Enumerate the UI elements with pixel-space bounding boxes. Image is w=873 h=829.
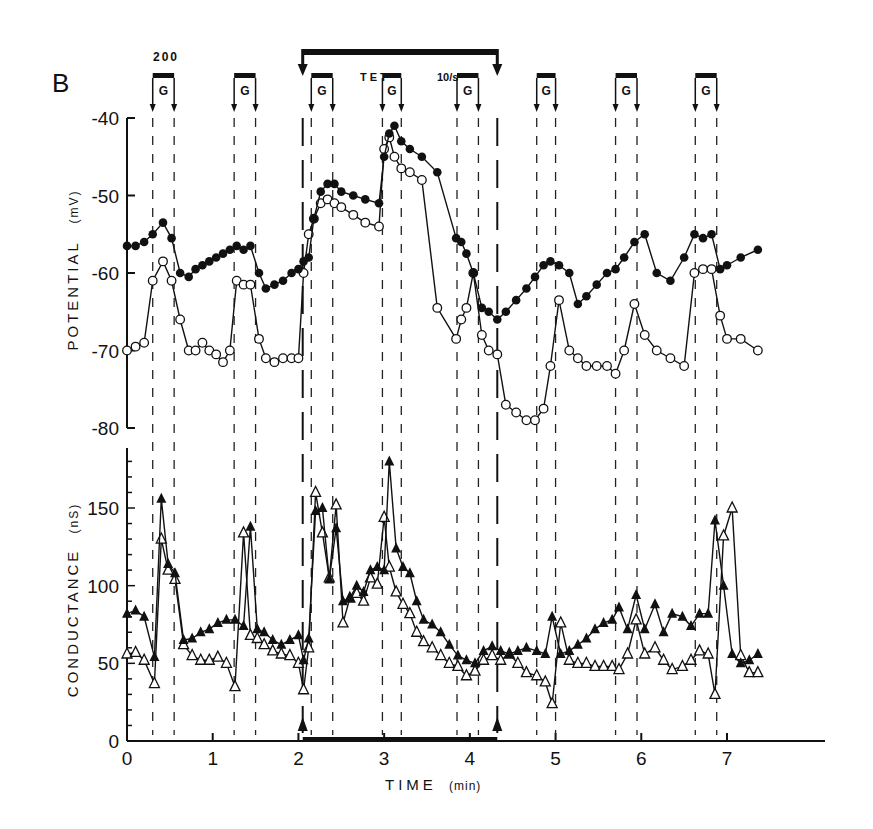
data-point [397, 137, 406, 146]
data-point [620, 346, 629, 355]
bottom-y-axis-title: CONDUCTANCE (nS) [64, 503, 81, 697]
series-line [127, 137, 758, 420]
data-point [167, 276, 176, 285]
arrow-down-icon [613, 104, 619, 112]
data-point [719, 580, 729, 590]
data-point [419, 614, 429, 624]
data-point [252, 623, 262, 633]
data-point [592, 362, 601, 371]
data-point [279, 354, 288, 363]
data-point [268, 634, 278, 644]
data-point [338, 617, 348, 627]
pulse-g-label: G [622, 84, 631, 98]
data-point [590, 623, 600, 633]
data-point [479, 645, 489, 655]
data-point [592, 280, 601, 289]
data-point [148, 230, 157, 239]
pulse-bar [153, 73, 174, 78]
pulse-bar [311, 73, 332, 78]
data-point [603, 269, 612, 278]
pulse-g-label: G [317, 84, 326, 98]
top-y-tick-label: -40 [92, 108, 119, 129]
pulse-g-label: G [541, 84, 550, 98]
data-point [703, 608, 713, 618]
data-point [304, 253, 313, 262]
arrow-down-icon [330, 104, 336, 112]
data-point [630, 300, 639, 309]
data-point [159, 257, 168, 266]
data-point [375, 199, 384, 208]
data-point [462, 304, 471, 313]
data-point [176, 315, 185, 324]
data-point [736, 335, 745, 344]
data-point [631, 589, 641, 599]
data-point [427, 619, 437, 629]
data-point [512, 296, 521, 305]
data-point [452, 335, 461, 344]
data-point [131, 342, 140, 351]
data-point [436, 626, 446, 636]
data-point [294, 265, 303, 274]
data-point [640, 623, 650, 633]
data-point [556, 617, 566, 627]
data-point [502, 400, 511, 409]
data-point [753, 667, 763, 677]
data-point [140, 238, 149, 247]
data-point [650, 598, 660, 608]
data-point [716, 311, 725, 320]
data-point [391, 586, 401, 596]
arrow-down-icon [454, 104, 460, 112]
data-point [337, 187, 346, 196]
data-point [582, 362, 591, 371]
data-point [710, 514, 720, 524]
data-point [131, 646, 141, 656]
data-point [212, 350, 221, 359]
data-point [123, 346, 132, 355]
pulse-g-label: G [463, 84, 472, 98]
data-point [330, 180, 339, 189]
data-point [512, 408, 521, 417]
arrow-down-icon [692, 104, 698, 112]
pulse-g-label: G [387, 84, 396, 98]
data-point [176, 269, 185, 278]
pulse-bar [695, 73, 716, 78]
data-point [156, 493, 166, 503]
figure: -40-50-60-70-8015010050001234567GGGGGGGG [0, 0, 873, 829]
data-point [484, 307, 493, 316]
data-point [140, 338, 149, 347]
data-point [666, 276, 675, 285]
pulse-bar [537, 73, 556, 78]
bottom-y-tick-label: 100 [87, 576, 119, 597]
top-y-tick-label: -70 [92, 341, 119, 362]
data-point [502, 307, 511, 316]
data-point [299, 684, 309, 694]
data-point [239, 620, 249, 630]
data-point [493, 315, 502, 324]
pulse-bar [457, 73, 478, 78]
data-point [611, 369, 620, 378]
data-point [390, 121, 399, 130]
pulse-g-label: G [240, 84, 249, 98]
data-point [316, 187, 325, 196]
tet-bracket [303, 49, 498, 55]
data-point [349, 191, 358, 200]
pulse-g-label: G [159, 84, 168, 98]
data-point [262, 284, 271, 293]
data-point [652, 269, 661, 278]
data-point [391, 542, 401, 552]
data-point [159, 218, 168, 227]
data-point [213, 651, 223, 661]
data-point [270, 280, 279, 289]
data-point [255, 335, 264, 344]
data-point [139, 611, 149, 621]
data-point [406, 168, 415, 177]
data-point [245, 521, 255, 531]
data-point [337, 203, 346, 212]
top-y-tick-label: -80 [92, 418, 119, 439]
data-point [397, 164, 406, 173]
data-point [555, 296, 564, 305]
data-point [375, 222, 384, 231]
data-point [546, 362, 555, 371]
data-point [478, 331, 487, 340]
data-point [131, 242, 140, 251]
